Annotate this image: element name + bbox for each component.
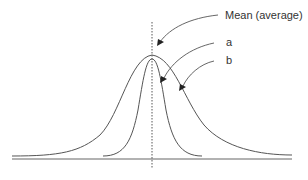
curve-a-narrow	[103, 59, 202, 156]
curve-b-label: b	[226, 54, 232, 66]
arrowhead-icon	[179, 84, 186, 91]
mean-label: Mean (average)	[225, 9, 303, 21]
arrowhead-icon	[160, 76, 167, 83]
distribution-diagram: Mean (average) a b	[0, 0, 308, 180]
curve-b-arrow	[183, 61, 214, 86]
curve-a-label: a	[226, 36, 233, 48]
mean-arrow	[160, 15, 218, 42]
curve-a-arrow	[164, 43, 214, 78]
arrowhead-icon	[157, 39, 164, 46]
